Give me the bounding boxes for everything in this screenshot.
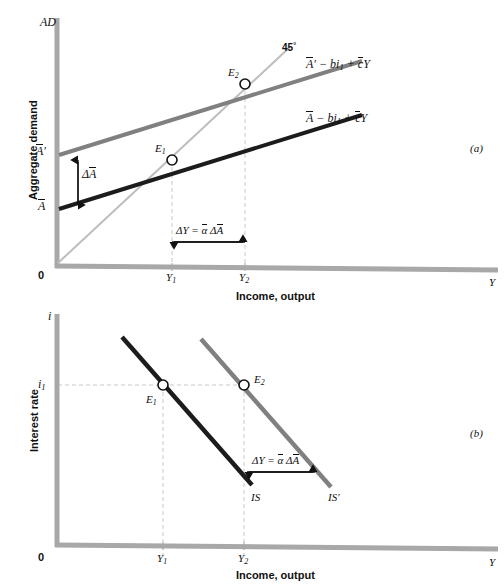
x-tick-label-y1-b: Y1 (157, 553, 167, 566)
ad-line-old (59, 115, 362, 209)
y-tick-label-a-prime: A′ (36, 145, 46, 157)
panel-label-a: (a) (470, 143, 483, 154)
is-curve (122, 337, 252, 485)
panel-label-b: (b) (470, 428, 483, 439)
equilibrium-label-e2-b: E2 (254, 374, 265, 387)
x-axis-a (55, 266, 498, 270)
equilibrium-point-e2-b (239, 380, 249, 390)
x-axis-end-label-b: Y (489, 557, 495, 568)
origin-label-a: 0 (38, 270, 44, 281)
is-prime-curve-label: IS′ (328, 492, 340, 503)
equilibrium-label-e1-a: E1 (155, 143, 166, 156)
equilibrium-point-e2-a (240, 79, 250, 89)
x-axis-title-b: Income, output (236, 570, 315, 581)
delta-y-label-b: ΔY = α ΔA (252, 455, 299, 466)
y-axis-top-label-b: i (48, 310, 51, 322)
delta-a-label: ΔA (82, 168, 96, 180)
ad-line-old-label: A − bi1 + cY (306, 112, 367, 126)
equilibrium-point-e1-b (158, 380, 168, 390)
x-axis-end-label-a: Y (489, 277, 495, 288)
ad-line-new (59, 61, 362, 155)
equilibrium-label-e2-a: E2 (228, 67, 239, 80)
y-axis-top-label-a: AD (40, 16, 56, 28)
panel-b-graphic (0, 300, 504, 587)
x-tick-label-y2-b: Y2 (238, 553, 248, 566)
y-axis-title-b: Interest rate (29, 389, 40, 452)
equilibrium-label-e1-b: E1 (146, 394, 157, 407)
x-tick-label-y2-a: Y2 (239, 272, 249, 285)
delta-y-label-a: ΔY = α ΔA (176, 225, 223, 236)
y-tick-label-a: A (38, 200, 45, 212)
x-tick-label-y1-a: Y1 (166, 272, 176, 285)
y-tick-label-i1: i1 (38, 378, 46, 392)
panel-a-graphic (0, 0, 504, 300)
x-axis-b (55, 545, 498, 549)
equilibrium-point-e1-a (167, 155, 177, 165)
is-curve-label: IS (251, 492, 260, 503)
ad-line-new-label: A′ − bi1 + cY (306, 58, 370, 72)
y-axis-title-b-wrap: Interest rate (29, 389, 40, 452)
origin-label-b: 0 (38, 552, 44, 563)
figure-container: AD Aggregate demand A′ A ΔA E1 E2 45° A′… (0, 0, 504, 587)
forty-five-degree-label: 45° (282, 42, 296, 53)
